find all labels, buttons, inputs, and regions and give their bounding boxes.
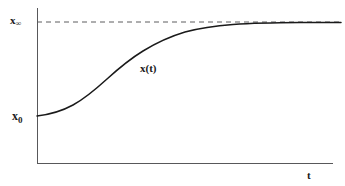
plot-area [0, 0, 345, 186]
initial-value-label: x0 [12, 110, 23, 125]
x-axis-label: t [307, 170, 311, 181]
asymptote-value-label: x∞ [10, 15, 21, 28]
initial-label-subscript: 0 [18, 115, 23, 125]
figure-container: x∞ x0 x(t) t [0, 0, 345, 186]
asymptote-label-subscript: ∞ [16, 19, 22, 28]
curve-label: x(t) [140, 63, 157, 74]
sigmoid-curve [37, 22, 341, 116]
